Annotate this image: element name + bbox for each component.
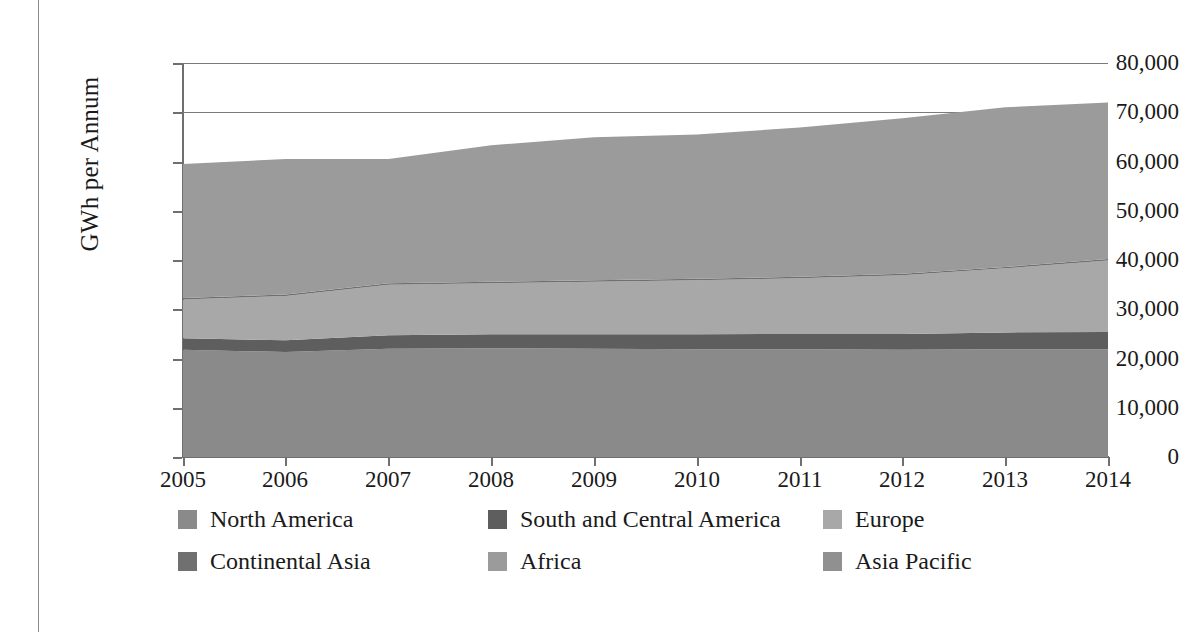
legend-entry-north-america[interactable]: North America	[178, 507, 488, 531]
legend-entry-europe[interactable]: Europe	[823, 507, 924, 531]
x-tick-mark	[594, 457, 596, 466]
legend-label: South and Central America	[520, 507, 781, 531]
x-tick-mark	[697, 457, 699, 466]
y-tick-mark	[173, 162, 182, 164]
y-tick-mark	[173, 63, 182, 65]
y-tick-mark	[173, 211, 182, 213]
legend-swatch-icon	[823, 510, 842, 529]
legend-row: Continental Asia Africa Asia Pacific	[178, 540, 1078, 582]
x-tick-mark	[902, 457, 904, 466]
x-tick-label-2009: 2009	[534, 467, 654, 493]
legend-swatch-icon	[823, 552, 842, 571]
x-tick-label-2014: 2014	[1048, 467, 1168, 493]
x-tick-mark	[1005, 457, 1007, 466]
area-series-africa	[183, 102, 1108, 298]
y-tick-mark	[173, 309, 182, 311]
y-axis-title: GWh per Annum	[76, 34, 104, 294]
x-tick-label-2012: 2012	[842, 467, 962, 493]
legend-swatch-icon	[178, 552, 197, 571]
legend-label: Asia Pacific	[855, 549, 972, 573]
legend-label: Europe	[855, 507, 924, 531]
x-tick-mark	[800, 457, 802, 466]
legend-entry-asia-pacific[interactable]: Asia Pacific	[823, 549, 972, 573]
area-series-north-america	[183, 348, 1108, 457]
legend-label: Africa	[520, 549, 581, 573]
x-tick-label-2010: 2010	[637, 467, 757, 493]
stacked-area-svg	[183, 63, 1108, 457]
legend-swatch-icon	[488, 510, 507, 529]
legend-label: North America	[210, 507, 353, 531]
x-tick-label-2007: 2007	[328, 467, 448, 493]
legend-entry-africa[interactable]: Africa	[488, 549, 823, 573]
x-tick-mark	[388, 457, 390, 466]
legend-entry-continental-asia[interactable]: Continental Asia	[178, 549, 488, 573]
y-tick-mark	[173, 457, 182, 459]
legend-entry-south-and-central-america[interactable]: South and Central America	[488, 507, 823, 531]
y-tick-mark	[173, 359, 182, 361]
chart-legend: North America South and Central America …	[178, 498, 1078, 582]
y-tick-mark	[173, 408, 182, 410]
legend-label: Continental Asia	[210, 549, 371, 573]
legend-swatch-icon	[178, 510, 197, 529]
y-tick-mark	[173, 260, 182, 262]
x-tick-label-2006: 2006	[225, 467, 345, 493]
legend-row: North America South and Central America …	[178, 498, 1078, 540]
x-tick-label-2008: 2008	[431, 467, 551, 493]
x-tick-mark	[285, 457, 287, 466]
legend-swatch-icon	[488, 552, 507, 571]
y-tick-mark	[173, 112, 182, 114]
series-layer	[183, 102, 1108, 457]
x-tick-mark	[1108, 457, 1110, 466]
stacked-area-chart-figure: GWh per Annum 80,000 70,000 60,000 50,00…	[0, 0, 1179, 632]
plot-area	[183, 63, 1108, 457]
x-tick-label-2013: 2013	[945, 467, 1065, 493]
x-tick-mark	[491, 457, 493, 466]
x-tick-mark	[183, 457, 185, 466]
